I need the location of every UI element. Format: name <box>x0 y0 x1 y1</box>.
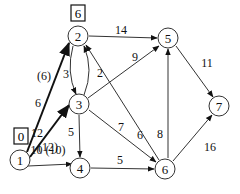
edge-label-2-3: 3 <box>63 67 69 81</box>
edge-label-3-4: 5 <box>68 125 74 139</box>
label-box-node-2: 6 <box>71 5 85 21</box>
edge-6-2 <box>86 45 159 160</box>
node-1: 1 <box>10 150 30 170</box>
edge-label-6-7: 16 <box>204 140 216 154</box>
edge-3-2 <box>84 46 89 95</box>
edge-5-7 <box>176 46 213 97</box>
node-7: 7 <box>209 96 229 116</box>
edge-3-4 <box>79 115 80 157</box>
svg-text:2: 2 <box>75 29 82 44</box>
edge-2-3 <box>70 46 76 94</box>
edge-6-7 <box>173 115 212 161</box>
svg-text:1: 1 <box>17 153 24 168</box>
svg-text:5: 5 <box>165 31 172 46</box>
svg-text:6: 6 <box>162 162 169 177</box>
node-3: 3 <box>69 94 89 114</box>
edge-1-4 <box>28 164 72 166</box>
edge-label-6-2: 6 <box>137 128 143 142</box>
svg-text:6: 6 <box>75 6 82 21</box>
edge-label-3-2: 2 <box>97 66 103 80</box>
label-box-node-1: 0 <box>14 128 28 144</box>
edge-flow-1-4: (12) <box>38 140 58 154</box>
svg-text:4: 4 <box>77 161 84 176</box>
node-6: 6 <box>155 159 175 179</box>
edge-label-3-5: 9 <box>132 50 138 64</box>
node-4: 4 <box>70 158 90 178</box>
edge-label-1-4: 12 <box>31 126 43 140</box>
svg-text:3: 3 <box>76 97 83 112</box>
edge-flow-1-2: (6) <box>37 69 51 83</box>
edge-label-2-5: 14 <box>115 23 127 37</box>
svg-text:0: 0 <box>18 129 25 144</box>
edge-label-4-6: 5 <box>117 153 123 167</box>
edge-4-6 <box>91 168 154 169</box>
edge-label-5-7: 11 <box>201 56 213 70</box>
svg-text:7: 7 <box>216 99 223 114</box>
node-5: 5 <box>158 28 178 48</box>
edge-label-3-6: 7 <box>118 120 124 134</box>
graph-diagram: 6 (6) 10 (10) 12 (12) 3 2 14 9 6 7 5 5 8… <box>0 0 240 194</box>
edge-label-6-5: 8 <box>157 127 163 141</box>
node-2: 2 <box>68 26 88 46</box>
edge-label-1-2: 6 <box>35 96 41 110</box>
